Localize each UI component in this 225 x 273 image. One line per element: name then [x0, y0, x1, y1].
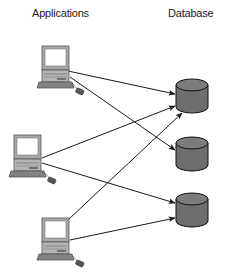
computer-icon — [37, 218, 84, 267]
database-1 — [176, 79, 208, 113]
connection-app1-db2 — [70, 77, 175, 150]
database-cylinder-icon — [176, 193, 208, 227]
connection-app2-db3 — [42, 163, 175, 203]
database-cylinder-icon — [176, 79, 208, 113]
database-2 — [176, 137, 208, 171]
database-3 — [176, 193, 208, 227]
computer-icon — [9, 135, 56, 184]
connection-app1-db1 — [68, 71, 175, 94]
application-3 — [37, 218, 84, 267]
computer-icon — [37, 46, 84, 95]
connections — [42, 71, 182, 240]
database-cylinder-icon — [176, 137, 208, 171]
application-2 — [9, 135, 56, 184]
connection-app3-db1 — [69, 113, 182, 219]
connection-app2-db1 — [42, 106, 175, 158]
connection-app3-db3 — [70, 218, 175, 240]
diagram-canvas — [0, 0, 225, 273]
application-1 — [37, 46, 84, 95]
